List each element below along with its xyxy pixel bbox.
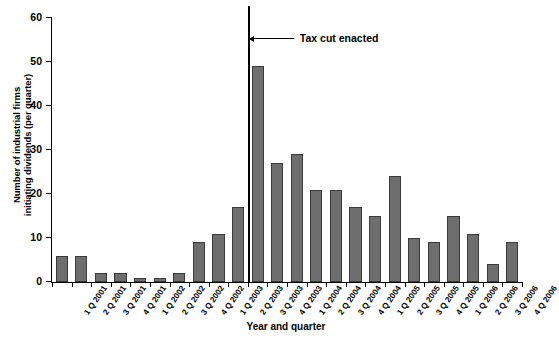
y-tick-10: 10: [46, 237, 52, 238]
tax-cut-event-line: [248, 6, 250, 282]
bar: [291, 154, 303, 282]
bar: [252, 66, 264, 282]
bar: [173, 273, 185, 282]
bar: [330, 190, 342, 282]
annotation-leader-line: [250, 38, 294, 39]
y-tick-20: 20: [46, 193, 52, 194]
y-tick-label-40: 40: [30, 99, 42, 111]
bar: [154, 278, 166, 282]
bar: [447, 216, 459, 282]
tax-cut-annotation: Tax cut enacted: [250, 32, 379, 44]
bars-layer: [52, 18, 522, 282]
y-tick-50: 50: [46, 61, 52, 62]
bar: [193, 242, 205, 282]
bar: [212, 234, 224, 282]
bar: [506, 242, 518, 282]
y-tick-30: 30: [46, 149, 52, 150]
y-tick-label-60: 60: [30, 11, 42, 23]
annotation-label: Tax cut enacted: [300, 32, 379, 44]
bar: [95, 273, 107, 282]
y-tick-label-20: 20: [30, 187, 42, 199]
y-tick-60: 60: [46, 17, 52, 18]
bar: [271, 163, 283, 282]
y-tick-label-10: 10: [30, 231, 42, 243]
bar: [56, 256, 68, 282]
x-axis-title: Year and quarter: [51, 321, 521, 332]
bar: [428, 242, 440, 282]
bar: [467, 234, 479, 282]
bar: [389, 176, 401, 282]
bar: [114, 273, 126, 282]
x-axis-tick-labels: 1 Q 20012 Q 20013 Q 20014 Q 20011 Q 2002…: [51, 284, 521, 324]
y-tick-label-0: 0: [36, 275, 42, 287]
x-tick: [522, 282, 523, 287]
y-tick-40: 40: [46, 105, 52, 106]
bar: [75, 256, 87, 282]
y-tick-label-50: 50: [30, 55, 42, 67]
bar: [487, 264, 499, 282]
bar: [349, 207, 361, 282]
annotation-arrow-icon: [249, 36, 254, 42]
bar: [134, 278, 146, 282]
plot-area: 0102030405060 Tax cut enacted: [51, 18, 522, 283]
bar: [369, 216, 381, 282]
bar: [310, 190, 322, 282]
bar: [408, 238, 420, 282]
y-tick-label-30: 30: [30, 143, 42, 155]
bar: [232, 207, 244, 282]
y-axis-title-line1: Number of industrial firms: [11, 87, 22, 203]
